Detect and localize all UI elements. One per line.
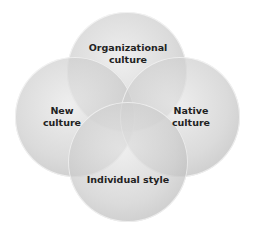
label-line: Organizational — [89, 42, 168, 54]
label-organizational-culture: Organizational culture — [89, 42, 168, 66]
label-native-culture: Native culture — [172, 105, 210, 129]
label-new-culture: New culture — [43, 105, 81, 129]
label-line: culture — [172, 117, 210, 129]
label-line: Native — [172, 105, 210, 117]
label-line: New — [43, 105, 81, 117]
circle-individual-style — [68, 102, 188, 222]
label-line: culture — [89, 54, 168, 66]
label-line: Individual style — [87, 174, 169, 186]
label-individual-style: Individual style — [87, 174, 169, 186]
label-line: culture — [43, 117, 81, 129]
